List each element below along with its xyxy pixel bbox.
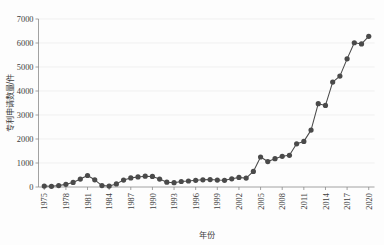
data-point [294,141,299,146]
data-point [128,175,133,180]
data-point [121,177,126,182]
data-point [179,179,184,184]
data-point [164,180,169,185]
x-tick-label: 1975 [40,193,49,210]
x-tick-label: 2020 [365,193,374,210]
data-point [107,183,112,188]
data-point [236,175,241,180]
data-point [42,183,47,188]
x-tick-label: 2014 [322,192,331,210]
data-point [143,174,148,179]
x-tick-label: 2008 [278,193,287,210]
data-point [258,154,263,159]
data-point [157,176,162,181]
y-tick-label: 0 [29,183,33,192]
data-point [193,178,198,183]
data-point [345,56,350,61]
data-point [359,41,364,46]
data-point [200,177,205,182]
data-point [150,174,155,179]
x-tick-label: 1978 [62,193,71,210]
data-series [42,34,372,189]
data-point [114,181,119,186]
y-tick-label: 3000 [17,111,34,120]
data-point [215,177,220,182]
data-point [287,153,292,158]
data-point [78,176,83,181]
data-point [208,177,213,182]
x-tick-label: 2017 [343,193,352,210]
data-point [366,34,371,39]
data-point [308,128,313,133]
x-tick-label: 1996 [192,193,201,210]
data-point [244,176,249,181]
x-tick-label: 1993 [170,193,179,210]
data-point [265,159,270,164]
data-point [337,74,342,79]
y-tick-label: 4000 [17,87,34,96]
data-point [85,173,90,178]
line-chart: 01000200030004000500060007000 1975197819… [0,0,384,245]
data-point [330,80,335,85]
data-point [63,182,68,187]
y-tick-label: 5000 [17,63,34,72]
data-point [99,183,104,188]
x-tick-label: 2005 [257,193,266,210]
data-point [251,169,256,174]
x-axis-label: 年份 [199,230,215,240]
y-tick-label: 2000 [17,135,34,144]
data-point [323,103,328,108]
data-point [56,183,61,188]
x-axis-ticks: 1975197819811984198719901993199619992002… [40,187,373,210]
data-point [301,139,306,144]
x-tick-label: 1987 [127,193,136,210]
x-tick-label: 2002 [235,193,244,210]
axis-lines [39,19,375,187]
axis-spine [39,19,375,187]
series-line [44,36,368,186]
grid-lines [39,19,375,163]
x-tick-label: 2011 [300,193,309,209]
x-tick-label: 1984 [105,192,114,210]
data-point [316,101,321,106]
chart-figure: 01000200030004000500060007000 1975197819… [0,0,384,245]
data-point [171,180,176,185]
data-point [229,176,234,181]
data-point [272,156,277,161]
data-point [186,178,191,183]
data-point [352,40,357,45]
data-point [71,180,76,185]
x-tick-label: 1990 [149,193,158,210]
x-tick-label: 1981 [84,193,93,210]
data-point [222,178,227,183]
data-point [135,174,140,179]
y-tick-label: 6000 [17,39,34,48]
data-point [280,154,285,159]
data-point [49,184,54,189]
y-axis-ticks: 01000200030004000500060007000 [17,15,39,192]
y-axis-label: 专利申请数量/件 [5,74,15,133]
y-tick-label: 1000 [17,159,34,168]
x-tick-label: 1999 [213,193,222,210]
y-tick-label: 7000 [17,15,34,24]
data-point [92,177,97,182]
